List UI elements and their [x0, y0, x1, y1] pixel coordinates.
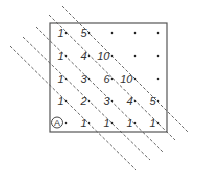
grid-dot — [111, 78, 114, 81]
path-count-label: 10 — [97, 50, 110, 62]
dashed-diagonal-line — [36, 27, 163, 152]
grid-dot — [157, 100, 160, 103]
grid-dot — [88, 55, 91, 58]
grid-dot — [65, 122, 68, 125]
grid-dot — [88, 122, 91, 125]
grid-dot — [157, 55, 160, 58]
grid-dot — [111, 55, 114, 58]
grid-dot — [111, 122, 114, 125]
path-count-label: 1 — [57, 73, 63, 85]
path-count-label: 3 — [103, 95, 110, 107]
grid-cells: 1514101361012345A1111 — [52, 27, 160, 129]
grid-dot — [134, 78, 137, 81]
path-count-label: 1 — [126, 117, 132, 129]
path-count-label: 10 — [120, 73, 133, 85]
grid-dot — [157, 122, 160, 125]
path-count-label: 1 — [57, 50, 63, 62]
path-count-label: 1 — [57, 95, 63, 107]
grid-dot — [65, 100, 68, 103]
path-count-label: 1 — [149, 117, 155, 129]
path-count-label: 4 — [126, 95, 132, 107]
grid-dot — [65, 55, 68, 58]
path-count-label: 1 — [80, 117, 86, 129]
grid-dot — [134, 122, 137, 125]
lattice-diagram: 1514101361012345A1111 — [0, 0, 198, 177]
path-count-label: 5 — [149, 95, 156, 107]
grid-dot — [134, 55, 137, 58]
grid-dot — [88, 32, 91, 35]
origin-label: A — [54, 118, 60, 128]
dashed-diagonal-line — [10, 46, 136, 170]
grid-dot — [134, 100, 137, 103]
grid-dot — [157, 78, 160, 81]
path-count-label: 1 — [103, 117, 109, 129]
grid-dot — [134, 32, 137, 35]
path-count-label: 2 — [79, 95, 86, 107]
grid-dot — [65, 32, 68, 35]
grid-dot — [65, 78, 68, 81]
path-count-label: 4 — [80, 50, 86, 62]
dashed-diagonal-line — [62, 6, 188, 132]
path-count-label: 6 — [103, 73, 110, 85]
path-count-label: 5 — [80, 27, 87, 39]
grid-dot — [111, 32, 114, 35]
grid-dot — [157, 32, 160, 35]
grid-dot — [88, 78, 91, 81]
path-count-label: 3 — [80, 73, 87, 85]
path-count-label: 1 — [57, 27, 63, 39]
diagonal-dashed-lines — [10, 6, 188, 170]
grid-dot — [111, 100, 114, 103]
grid-dot — [88, 100, 91, 103]
